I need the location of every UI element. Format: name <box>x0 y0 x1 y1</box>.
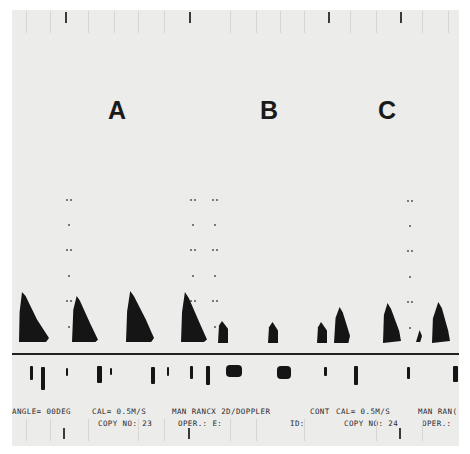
minor-tick <box>50 419 51 441</box>
minor-tick <box>304 11 305 33</box>
panel-label-b: B <box>260 96 278 125</box>
calibration-readout-2: CAL= 0.5M/S <box>336 407 390 416</box>
major-tick <box>399 428 401 439</box>
angle-readout: ANGLE= 00DEG <box>12 407 71 416</box>
minor-tick <box>26 11 27 33</box>
minor-tick <box>88 11 89 33</box>
minor-tick <box>88 419 89 441</box>
major-tick <box>65 12 67 23</box>
zero-velocity-baseline <box>12 353 459 355</box>
minor-tick <box>422 11 423 33</box>
bottom-time-scale <box>12 418 459 442</box>
minor-tick <box>164 419 165 441</box>
cont-readout: CONT <box>310 407 330 416</box>
minor-tick <box>230 11 231 33</box>
minor-tick <box>50 11 51 33</box>
minor-tick <box>256 11 257 33</box>
major-tick <box>63 428 65 439</box>
panel-label-c: C <box>378 96 396 125</box>
panel-label-a: A <box>108 96 126 125</box>
major-tick <box>328 12 330 23</box>
minor-tick <box>448 11 449 33</box>
minor-tick <box>26 419 27 441</box>
minor-tick <box>138 11 139 33</box>
minor-tick <box>138 419 139 441</box>
major-tick <box>189 12 191 23</box>
minor-tick <box>256 419 257 441</box>
minor-tick <box>280 11 281 33</box>
minor-tick <box>164 11 165 33</box>
mode-readout-2: MAN RAN( <box>418 407 457 416</box>
mode-readout: MAN RANCX 2D/DOPPLER <box>172 407 270 416</box>
calibration-readout: CAL= 0.5M/S <box>92 407 146 416</box>
minor-tick <box>422 419 423 441</box>
major-tick <box>400 12 402 23</box>
top-time-scale <box>12 10 459 34</box>
minor-tick <box>376 419 377 441</box>
major-tick <box>188 428 190 439</box>
minor-tick <box>230 419 231 441</box>
doppler-printout: A B C <box>12 10 459 446</box>
minor-tick <box>114 11 115 33</box>
minor-tick <box>304 419 305 441</box>
minor-tick <box>376 11 377 33</box>
minor-tick <box>350 11 351 33</box>
